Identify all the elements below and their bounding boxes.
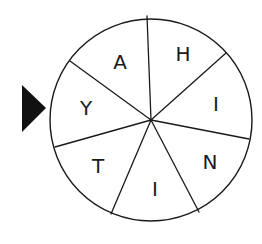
section-label-n: N bbox=[203, 150, 218, 174]
spinner-diagram: A H I N I T Y bbox=[0, 0, 262, 244]
section-label-h: H bbox=[175, 42, 190, 66]
spinner-svg: A H I N I T Y bbox=[0, 0, 262, 244]
spinner-hub bbox=[149, 118, 152, 121]
section-label-a: A bbox=[113, 50, 127, 74]
section-label-i-bottom: I bbox=[152, 177, 158, 201]
pointer-arrow-icon bbox=[22, 85, 46, 132]
section-label-i-right: I bbox=[213, 92, 219, 116]
section-label-y: Y bbox=[79, 96, 93, 120]
section-label-t: T bbox=[91, 154, 105, 178]
